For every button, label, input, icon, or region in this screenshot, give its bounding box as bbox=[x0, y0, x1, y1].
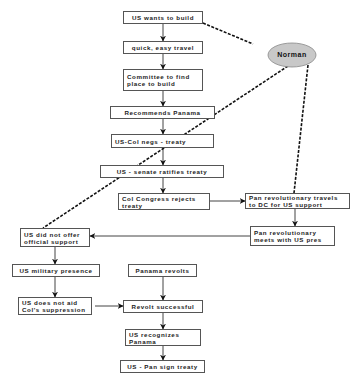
node-pan-revolutionary-meets: Pan revolutionary meets with US pres bbox=[250, 226, 335, 246]
node-us-did-not-offer: US did not offer official support bbox=[20, 228, 90, 247]
dashed-norman-n1 bbox=[203, 23, 253, 44]
dashed-norman-n8 bbox=[294, 65, 308, 193]
norman-label: Norman bbox=[267, 51, 317, 58]
node-col-congress-rejects: Col Congress rejects treaty bbox=[118, 193, 210, 210]
node-us-wants-to-build: US wants to build bbox=[123, 11, 203, 24]
flowchart-canvas: Norman US wants to build quick, easy tra… bbox=[0, 0, 356, 383]
node-us-does-not-aid: US does not aid Col's suppression bbox=[18, 297, 92, 315]
node-senate-ratifies: US - senate ratifies treaty bbox=[100, 165, 224, 178]
node-pan-revolutionary-travels: Pan revolutionary travels to DC for US s… bbox=[245, 193, 350, 209]
node-quick-easy-travel: quick, easy travel bbox=[123, 41, 203, 54]
node-committee: Committee to find place to build bbox=[123, 69, 203, 91]
node-recommends-panama: Recommends Panama bbox=[110, 106, 215, 119]
node-us-recognizes-panama: US recognizes Panama bbox=[125, 329, 201, 346]
node-us-pan-sign-treaty: US - Pan sign treaty bbox=[120, 360, 205, 373]
node-panama-revolts: Panama revolts bbox=[128, 264, 197, 277]
node-us-military-presence: US military presence bbox=[12, 264, 100, 277]
node-revolt-successful: Revolt successful bbox=[123, 300, 203, 313]
node-us-col-negs-treaty: US-Col negs - treaty bbox=[111, 134, 214, 148]
